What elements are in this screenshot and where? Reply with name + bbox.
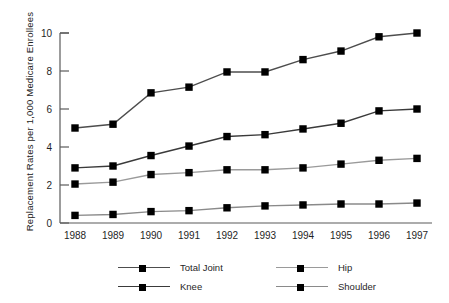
x-tick-label: 1990 [140, 230, 163, 241]
data-point-marker [223, 133, 230, 140]
y-tick-label: 6 [46, 104, 52, 115]
data-point-marker [413, 29, 420, 36]
legend-square-marker [139, 284, 146, 291]
data-point-marker [147, 171, 154, 178]
data-point-marker [147, 152, 154, 159]
legend-item[interactable]: Knee [118, 277, 276, 296]
data-point-marker [185, 169, 192, 176]
data-point-marker [71, 164, 78, 171]
legend-label: Hip [328, 262, 352, 273]
x-tick-label: 1993 [254, 230, 277, 241]
data-point-marker [375, 157, 382, 164]
data-point-marker [71, 212, 78, 219]
legend-key-icon [118, 281, 170, 293]
x-tick-label: 1991 [178, 230, 201, 241]
data-point-marker [109, 178, 116, 185]
x-tick-label: 1989 [102, 230, 125, 241]
legend-key-icon [276, 262, 328, 274]
x-tick-label: 1996 [368, 230, 391, 241]
y-axis-ticks: 0246810 [41, 28, 69, 229]
series-line [75, 109, 417, 168]
data-point-marker [337, 47, 344, 54]
chart-legend: Total JointHipKneeShoulder [118, 258, 438, 296]
data-point-marker [299, 125, 306, 132]
x-tick-label: 1995 [330, 230, 353, 241]
legend-square-marker [297, 265, 304, 272]
data-point-marker [261, 68, 268, 75]
data-point-marker [413, 155, 420, 162]
legend-item[interactable]: Shoulder [276, 277, 434, 296]
chart-container: Replacement Rates per 1,000 Medicare Enr… [0, 0, 449, 303]
data-point-marker [299, 164, 306, 171]
data-point-marker [109, 121, 116, 128]
x-tick-label: 1988 [64, 230, 87, 241]
legend-item[interactable]: Total Joint [118, 258, 276, 277]
data-point-marker [71, 180, 78, 187]
plot-area: 0246810 19881989199019911992199319941995… [0, 0, 449, 250]
data-point-marker [71, 124, 78, 131]
legend-item[interactable]: Hip [276, 258, 434, 277]
data-point-marker [147, 89, 154, 96]
series-markers [71, 29, 420, 219]
data-point-marker [413, 105, 420, 112]
axis-lines [60, 33, 432, 223]
data-point-marker [223, 166, 230, 173]
y-tick-label: 4 [46, 142, 52, 153]
data-point-marker [375, 33, 382, 40]
data-point-marker [299, 201, 306, 208]
data-point-marker [337, 200, 344, 207]
legend-label: Knee [170, 281, 202, 292]
x-tick-label: 1997 [406, 230, 429, 241]
data-point-marker [223, 204, 230, 211]
data-point-marker [299, 56, 306, 63]
legend-square-marker [297, 284, 304, 291]
series-line [75, 33, 417, 128]
data-point-marker [185, 207, 192, 214]
data-point-marker [375, 107, 382, 114]
data-point-marker [223, 68, 230, 75]
y-tick-label: 2 [46, 180, 52, 191]
legend-key-icon [276, 281, 328, 293]
data-point-marker [261, 131, 268, 138]
data-point-marker [337, 160, 344, 167]
data-point-marker [185, 142, 192, 149]
data-point-marker [261, 202, 268, 209]
data-point-marker [109, 162, 116, 169]
y-tick-label: 10 [41, 28, 53, 39]
series-line [75, 203, 417, 215]
series-lines [75, 33, 417, 215]
data-point-marker [413, 199, 420, 206]
y-tick-label: 8 [46, 66, 52, 77]
legend-label: Total Joint [170, 262, 223, 273]
data-point-marker [147, 208, 154, 215]
data-point-marker [261, 166, 268, 173]
data-point-marker [375, 200, 382, 207]
x-axis-ticks: 1988198919901991199219931994199519961997 [64, 230, 429, 241]
data-point-marker [185, 83, 192, 90]
y-tick-label: 0 [46, 218, 52, 229]
legend-label: Shoulder [328, 281, 376, 292]
data-point-marker [337, 120, 344, 127]
legend-square-marker [139, 265, 146, 272]
x-tick-label: 1994 [292, 230, 315, 241]
x-tick-label: 1992 [216, 230, 239, 241]
data-point-marker [109, 211, 116, 218]
legend-key-icon [118, 262, 170, 274]
